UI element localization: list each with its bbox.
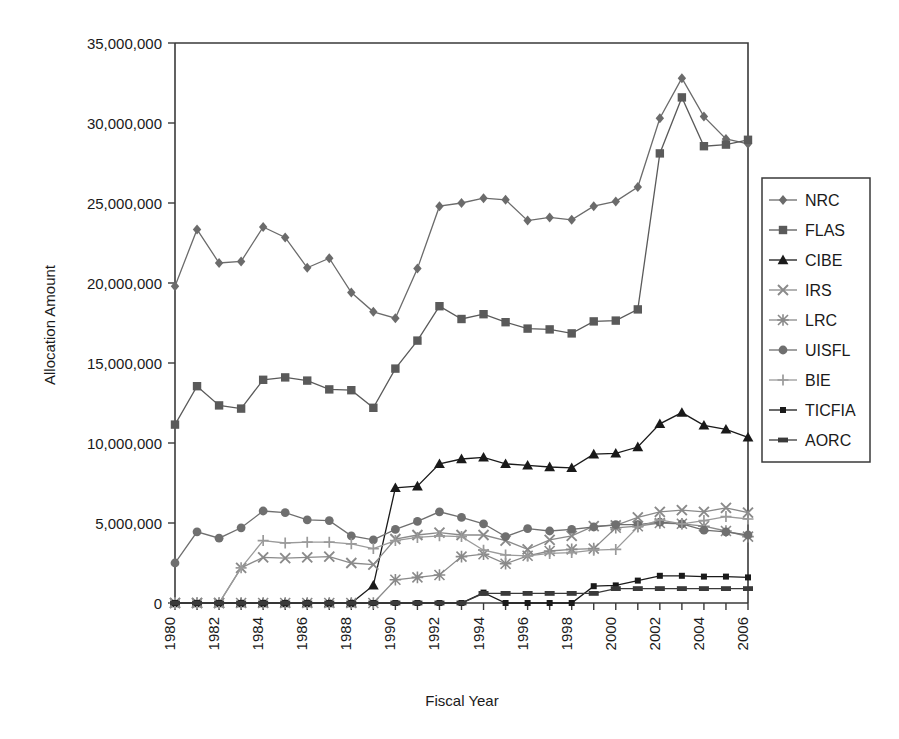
data-point-diamond	[678, 73, 686, 83]
x-tick-label: 1990	[381, 617, 398, 650]
legend-label: UISFL	[805, 342, 850, 359]
x-tick-label: 2004	[690, 617, 707, 650]
x-tick-label: 1982	[205, 617, 222, 650]
data-point-square	[634, 305, 642, 313]
data-point-smallsquare	[745, 574, 751, 580]
data-point-diamond	[590, 201, 598, 211]
data-point-dashsquare	[501, 591, 511, 596]
y-tick-label: 25,000,000	[87, 195, 162, 212]
data-point-square	[281, 373, 289, 381]
data-point-diamond	[391, 313, 399, 323]
data-point-plus	[434, 530, 445, 541]
data-point-smallsquare	[780, 407, 786, 413]
legend-item-ticfia[interactable]: TICFIA	[769, 402, 856, 419]
y-tick-label: 15,000,000	[87, 355, 162, 372]
data-point-dashsquare	[346, 601, 356, 606]
data-point-square	[347, 386, 355, 394]
data-point-circle	[457, 513, 466, 522]
data-point-square	[523, 324, 531, 332]
data-point-smallsquare	[657, 573, 663, 579]
y-axis-ticks: 05,000,00010,000,00015,000,00020,000,000…	[87, 35, 175, 612]
data-point-dashsquare	[368, 601, 378, 606]
x-tick-label: 1992	[425, 617, 442, 650]
data-point-dashsquare	[611, 586, 621, 591]
data-point-smallsquare	[569, 600, 575, 606]
x-tick-label: 2006	[734, 617, 751, 650]
data-point-square	[171, 420, 179, 428]
data-point-circle	[722, 527, 731, 536]
data-point-dashsquare	[390, 601, 400, 606]
data-point-star	[390, 574, 402, 586]
legend-label: IRS	[805, 282, 832, 299]
data-point-circle	[611, 520, 620, 529]
data-point-plus	[588, 545, 599, 556]
data-point-diamond	[567, 215, 575, 225]
x-axis-title: Fiscal Year	[425, 692, 498, 709]
y-tick-label: 5,000,000	[95, 515, 162, 532]
data-point-circle	[369, 535, 378, 544]
legend-item-bie[interactable]: BIE	[769, 372, 831, 389]
legend-item-lrc[interactable]: LRC	[769, 312, 837, 329]
data-point-dashsquare	[324, 601, 334, 606]
legend-label: NRC	[805, 192, 840, 209]
data-point-plus	[346, 538, 357, 549]
data-point-smallsquare	[591, 583, 597, 589]
data-point-square	[193, 382, 201, 390]
x-tick-label: 1984	[249, 617, 266, 650]
data-point-diamond	[779, 195, 787, 205]
legend-item-irs[interactable]: IRS	[769, 282, 832, 299]
data-point-circle	[171, 559, 180, 568]
data-point-dashsquare	[192, 601, 202, 606]
x-tick-label: 2002	[646, 617, 663, 650]
data-point-circle	[391, 525, 400, 534]
data-point-circle	[567, 525, 576, 534]
x-tick-label: 1994	[470, 617, 487, 650]
data-point-plus	[280, 538, 291, 549]
data-point-diamond	[545, 212, 553, 222]
data-point-smallsquare	[547, 600, 553, 606]
data-point-square	[612, 316, 620, 324]
y-axis-title: Allocation Amount	[41, 264, 58, 385]
x-tick-label: 1998	[558, 617, 575, 650]
y-tick-label: 30,000,000	[87, 115, 162, 132]
data-point-dashsquare	[302, 601, 312, 606]
y-tick-label: 10,000,000	[87, 435, 162, 452]
data-point-diamond	[634, 182, 642, 192]
data-point-circle	[303, 515, 312, 524]
data-point-diamond	[413, 264, 421, 274]
data-point-dashsquare	[545, 591, 555, 596]
data-point-square	[413, 336, 421, 344]
data-point-circle	[501, 532, 510, 541]
data-point-smallsquare	[503, 600, 509, 606]
data-point-dashsquare	[721, 586, 731, 591]
data-point-triangle	[368, 580, 379, 590]
x-tick-label: 1980	[161, 617, 178, 650]
data-point-diamond	[369, 307, 377, 317]
data-point-plus	[302, 537, 313, 548]
data-point-circle	[545, 527, 554, 536]
data-point-circle	[193, 527, 202, 536]
legend-item-cibe[interactable]: CIBE	[769, 252, 842, 269]
legend-item-nrc[interactable]: NRC	[769, 192, 840, 209]
legend-item-flas[interactable]: FLAS	[769, 222, 845, 239]
data-point-circle	[523, 524, 532, 533]
line-chart: 05,000,00010,000,00015,000,00020,000,000…	[0, 0, 899, 739]
data-point-circle	[479, 519, 488, 528]
data-point-dashsquare	[655, 586, 665, 591]
data-point-diamond	[612, 196, 620, 206]
legend-label: TICFIA	[805, 402, 856, 419]
data-point-dashsquare	[699, 586, 709, 591]
data-point-circle	[744, 531, 753, 540]
data-point-circle	[237, 523, 246, 532]
legend-item-uisfl[interactable]: UISFL	[769, 342, 850, 359]
data-point-star	[456, 551, 468, 563]
data-point-square	[215, 401, 223, 409]
data-point-square	[545, 325, 553, 333]
data-point-square	[590, 317, 598, 325]
legend-item-aorc[interactable]: AORC	[769, 432, 851, 449]
legend-label: AORC	[805, 432, 851, 449]
data-point-dashsquare	[214, 601, 224, 606]
data-point-dashsquare	[523, 591, 533, 596]
data-point-square	[501, 318, 509, 326]
data-point-star	[434, 569, 446, 581]
